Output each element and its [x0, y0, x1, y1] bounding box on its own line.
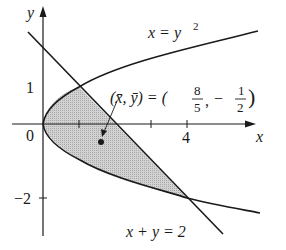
y-axis-label: y — [25, 4, 35, 22]
centroid-y-sign: − — [214, 90, 223, 107]
centroid-label-suffix: ) — [248, 84, 255, 109]
origin-label: 0 — [26, 127, 34, 144]
centroid-y-numerator: 1 — [238, 83, 245, 98]
x-axis-label: x — [255, 128, 263, 145]
centroid-y-denominator: 2 — [237, 100, 244, 115]
y-axis-arrow-icon — [40, 6, 47, 17]
line-label: x + y = 2 — [125, 223, 186, 241]
parabola-label-exponent: 2 — [193, 20, 199, 32]
x-tick-label-4: 4 — [182, 129, 190, 146]
centroid-dot — [98, 139, 104, 145]
centroid-x-numerator: 8 — [194, 83, 201, 98]
centroid-sep: , — [205, 92, 209, 109]
y-tick-label-1: 1 — [26, 79, 34, 96]
centroid-label-prefix: (x̄, ȳ) = ( — [110, 89, 169, 107]
parabola-label: x = y — [147, 24, 182, 42]
x-axis-arrow-icon — [245, 121, 256, 128]
y-tick-label-minus2: −2 — [14, 190, 31, 207]
centroid-diagram: y x 1 −2 0 4 x = y 2 x + y = 2 (x̄, ȳ) =… — [0, 0, 286, 250]
centroid-x-denominator: 5 — [194, 100, 201, 115]
